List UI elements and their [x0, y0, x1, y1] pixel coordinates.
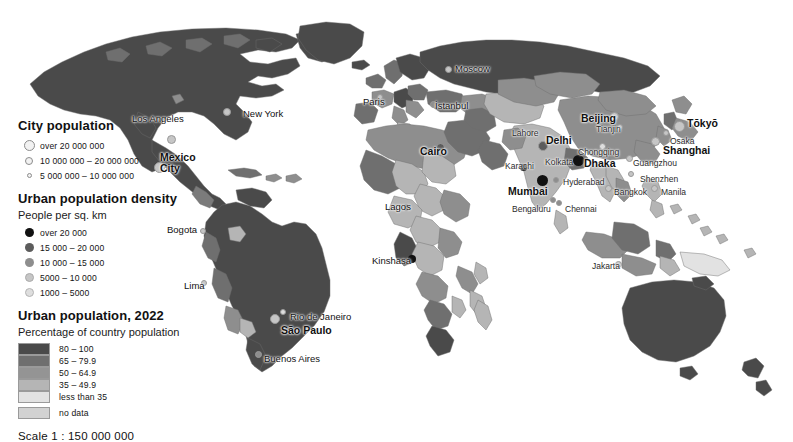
city-density-dot: [408, 255, 416, 263]
legend-item-label: 5000 – 10 000: [40, 273, 97, 283]
legend-choropleth-item: 50 – 64.9: [18, 367, 208, 379]
legend-density-item: 5000 – 10 000: [18, 271, 208, 284]
legend-item-label: 1000 – 5000: [40, 288, 89, 298]
choropleth-swatch: [18, 355, 50, 367]
city-density-dot: [651, 185, 658, 192]
legend-urban-density: Urban population density People per sq. …: [18, 191, 208, 299]
legend-item-label: over 20 000: [40, 228, 87, 238]
city-density-dot: [445, 66, 452, 73]
city-density-dot: [610, 112, 619, 121]
city-density-dot: [617, 124, 623, 130]
city-density-dot: [430, 101, 437, 108]
city-density-dot: [538, 141, 548, 151]
legend-urban-population-title: Urban population, 2022: [18, 308, 208, 323]
legend-density-item: over 20 000: [18, 226, 208, 239]
city-density-dot: [403, 204, 410, 211]
city-density-dot: [605, 185, 612, 192]
city-density-dot: [280, 309, 286, 315]
legend-choropleth-item: less than 35: [18, 391, 208, 403]
legend-density-item: 15 000 – 20 000: [18, 241, 208, 254]
city-circle-medium-icon: [18, 157, 40, 165]
legend-city-population-title: City population: [18, 118, 208, 133]
legend-city-population-item: 10 000 000 – 20 000 000: [18, 154, 208, 167]
density-dot-icon: [18, 288, 40, 297]
city-density-dot: [674, 121, 685, 132]
choropleth-swatch: [18, 407, 50, 419]
city-density-dot: [651, 137, 660, 146]
choropleth-swatch: [18, 343, 50, 355]
city-density-dot: [599, 143, 606, 150]
legend-item-label: 15 000 – 20 000: [40, 243, 104, 253]
city-density-dot: [255, 351, 262, 358]
legend-item-label: 10 000 – 15 000: [40, 258, 104, 268]
choropleth-swatch: [18, 367, 50, 379]
city-density-dot: [615, 261, 622, 268]
legend-item-label: 50 – 64.9: [59, 368, 96, 378]
legend-city-population-item: 5 000 000 – 10 000 000: [18, 169, 208, 182]
city-density-dot: [628, 171, 634, 177]
city-density-dot: [436, 143, 445, 152]
legend-item-label: no data: [59, 408, 89, 418]
legend-choropleth-item: 35 – 49.9: [18, 379, 208, 391]
city-density-dot: [556, 200, 562, 206]
choropleth-swatch: [18, 379, 50, 391]
legend-item-label: over 20 000 000: [40, 141, 104, 151]
legend-choropleth-item: no data: [18, 407, 208, 419]
city-density-dot: [223, 108, 231, 116]
map-scale-text: Scale 1 : 150 000 000: [18, 430, 208, 442]
legend-density-item: 1000 – 5000: [18, 286, 208, 299]
legend-urban-population: Urban population, 2022 Percentage of cou…: [18, 308, 208, 419]
map-legend: City population over 20 000 000 10 000 0…: [18, 118, 208, 442]
legend-city-population-item: over 20 000 000: [18, 139, 208, 152]
legend-item-label: 65 – 79.9: [59, 356, 96, 366]
city-density-dot: [626, 155, 633, 162]
density-dot-icon: [18, 228, 40, 237]
legend-density-item: 10 000 – 15 000: [18, 256, 208, 269]
density-dot-icon: [18, 273, 40, 282]
legend-city-population: City population over 20 000 000 10 000 0…: [18, 118, 208, 182]
city-density-dot: [377, 94, 383, 100]
density-dot-icon: [18, 258, 40, 267]
city-circle-small-icon: [18, 173, 40, 178]
legend-item-label: 80 – 100: [59, 344, 94, 354]
legend-item-label: 5 000 000 – 10 000 000: [40, 171, 134, 181]
legend-choropleth-item: 80 – 100: [18, 343, 208, 355]
legend-item-label: less than 35: [59, 392, 107, 402]
city-density-dot: [537, 175, 548, 186]
city-density-dot: [553, 177, 559, 183]
city-density-dot: [270, 314, 280, 324]
legend-choropleth-item: 65 – 79.9: [18, 355, 208, 367]
city-circle-large-icon: [18, 140, 40, 151]
legend-item-label: 35 – 49.9: [59, 380, 96, 390]
density-dot-icon: [18, 243, 40, 252]
legend-item-label: 10 000 000 – 20 000 000: [40, 156, 139, 166]
city-density-dot: [573, 155, 584, 166]
choropleth-swatch: [18, 391, 50, 403]
legend-urban-density-subtitle: People per sq. km: [18, 209, 208, 221]
legend-urban-population-subtitle: Percentage of country population: [18, 326, 208, 338]
city-density-dot: [520, 164, 527, 171]
city-density-dot: [528, 130, 534, 136]
legend-urban-density-title: Urban population density: [18, 191, 208, 206]
city-density-dot: [663, 130, 669, 136]
